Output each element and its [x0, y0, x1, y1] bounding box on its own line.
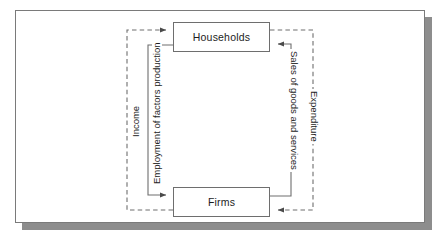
flow-path-sales	[270, 44, 291, 196]
flow-label-employment-of-factors-production: Employment of factors production	[152, 40, 162, 186]
figure-panel: Households Firms Income Employment of fa…	[15, 10, 425, 223]
flow-label-expenditure: Expenditure	[310, 89, 320, 144]
circular-flow-figure: Households Firms Income Employment of fa…	[0, 0, 440, 244]
entity-label-firms: Firms	[208, 196, 235, 208]
flow-label-sales-of-goods-and-services: Sales of goods and services	[290, 49, 300, 172]
flow-label-income: Income	[131, 104, 141, 139]
entity-box-firms: Firms	[173, 187, 270, 217]
entity-box-households: Households	[173, 22, 270, 52]
diagram-stage: Households Firms Income Employment of fa…	[16, 11, 424, 222]
entity-label-households: Households	[193, 31, 250, 43]
